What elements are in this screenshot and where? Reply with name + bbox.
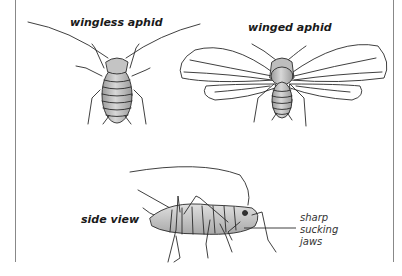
callout-line-2: sucking: [300, 224, 338, 236]
side-view-aphid-figure: [130, 167, 276, 262]
sharp-sucking-jaws-callout: sharp sucking jaws: [300, 212, 338, 248]
winged-aphid-figure: [180, 44, 387, 126]
side-view-label: side view: [81, 213, 139, 226]
wingless-aphid-figure: [28, 22, 200, 124]
winged-aphid-label: winged aphid: [248, 21, 332, 34]
wingless-aphid-label: wingless aphid: [70, 16, 163, 29]
aphid-illustration: [0, 0, 402, 276]
callout-line-1: sharp: [300, 212, 338, 224]
callout-line-3: jaws: [300, 236, 338, 248]
